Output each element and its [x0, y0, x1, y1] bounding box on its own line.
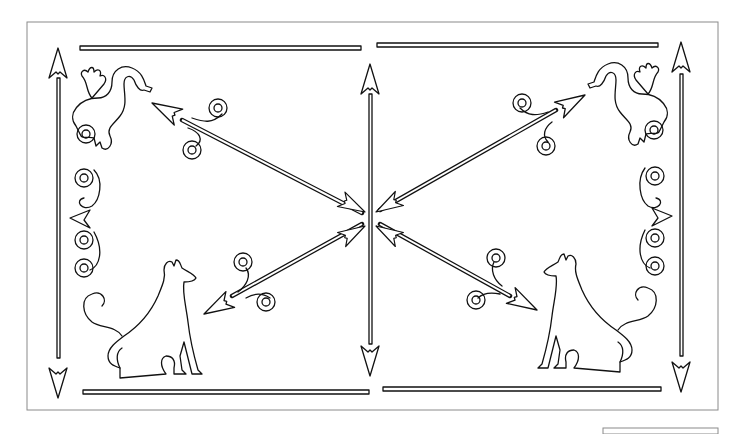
corner-tab: [603, 428, 718, 434]
bottom-bar-right: [383, 387, 661, 391]
line-art-canvas: [0, 0, 740, 434]
bottom-bar-left: [83, 390, 369, 394]
top-bar-left: [80, 46, 361, 50]
top-bar-right: [377, 43, 658, 47]
